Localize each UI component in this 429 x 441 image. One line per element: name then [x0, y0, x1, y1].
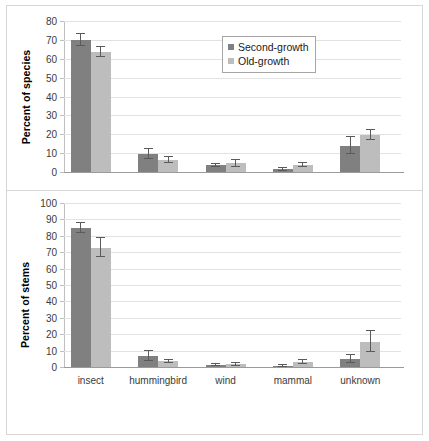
x-axis-line-bottom	[64, 367, 404, 368]
y-tick-mark	[60, 134, 64, 135]
bar-mammal-second-growth	[273, 202, 293, 367]
y-tick-mark	[60, 285, 64, 286]
y-tick-label: 20	[46, 129, 57, 140]
bar-insect-second-growth	[71, 202, 91, 367]
bar-group	[340, 202, 380, 367]
y-tick-mark	[60, 219, 64, 220]
y-tick-mark	[60, 153, 64, 154]
error-bar-cap-lower	[298, 363, 307, 364]
bar-rect	[360, 135, 380, 172]
bar-unknown-old-growth	[360, 202, 380, 367]
error-bar-cap-upper	[76, 222, 85, 223]
bar-unknown-second-growth	[340, 20, 360, 172]
error-bar-cap-lower	[211, 365, 220, 366]
bar-insect-old-growth	[91, 202, 111, 367]
bar-rect	[91, 52, 111, 172]
error-bar-line	[370, 331, 371, 352]
bar-group	[71, 202, 111, 367]
bar-wind-second-growth	[206, 202, 226, 367]
bar-rect	[71, 40, 91, 172]
y-tick-label: 50	[46, 280, 57, 291]
legend-swatch-second-growth	[228, 44, 234, 50]
y-tick-label: 10	[46, 345, 57, 356]
bar-hummingbird-second-growth	[138, 20, 158, 172]
y-tick-label: 50	[46, 72, 57, 83]
legend-label-second-growth: Second-growth	[238, 41, 309, 53]
legend: Second-growth Old-growth	[222, 36, 316, 73]
error-bar-cap-upper	[366, 129, 375, 130]
error-bar-cap-lower	[231, 365, 240, 366]
bar-group	[71, 20, 111, 172]
error-bar-cap-upper	[231, 159, 240, 160]
y-tick-label: 60	[46, 53, 57, 64]
y-tick-label: 30	[46, 312, 57, 323]
error-bar-cap-lower	[366, 351, 375, 352]
error-bar-cap-upper	[298, 162, 307, 163]
y-tick-mark	[60, 334, 64, 335]
error-bar-cap-upper	[164, 156, 173, 157]
y-tick-label: 30	[46, 110, 57, 121]
y-tick-mark	[60, 59, 64, 60]
error-bar-cap-lower	[346, 153, 355, 154]
y-tick-mark	[60, 203, 64, 204]
bar-hummingbird-old-growth	[158, 20, 178, 172]
x-category-label-hummingbird: hummingbird	[129, 375, 187, 386]
y-tick-mark	[60, 115, 64, 116]
y-tick-mark	[60, 318, 64, 319]
y-tick-mark	[60, 97, 64, 98]
bar-rect	[91, 248, 111, 367]
y-tick-label: 20	[46, 329, 57, 340]
legend-item-second-growth: Second-growth	[228, 40, 309, 54]
y-tick-mark	[60, 367, 64, 368]
bar-mammal-old-growth	[293, 202, 313, 367]
legend-label-old-growth: Old-growth	[238, 55, 289, 67]
legend-item-old-growth: Old-growth	[228, 54, 309, 68]
error-bar-line	[100, 238, 101, 257]
error-bar-cap-upper	[96, 237, 105, 238]
error-bar-cap-lower	[164, 362, 173, 363]
error-bar-cap-upper	[346, 136, 355, 137]
error-bar-cap-lower	[278, 366, 287, 367]
y-tick-label: 60	[46, 263, 57, 274]
error-bar-cap-upper	[366, 330, 375, 331]
chart-panel-bottom: Percent of stems 0102030405060708090100i…	[6, 191, 423, 435]
error-bar-cap-lower	[278, 170, 287, 171]
error-bar-cap-upper	[144, 148, 153, 149]
bar-group	[340, 20, 380, 172]
error-bar-cap-lower	[298, 166, 307, 167]
error-bar-cap-upper	[96, 46, 105, 47]
error-bar-cap-upper	[144, 350, 153, 351]
y-tick-mark	[60, 78, 64, 79]
error-bar-cap-lower	[231, 166, 240, 167]
bar-wind-old-growth	[226, 202, 246, 367]
error-bar-cap-lower	[96, 56, 105, 57]
chart-panel-top: Percent of species 01020304050607080 Sec…	[6, 5, 423, 191]
bar-hummingbird-second-growth	[138, 202, 158, 367]
x-axis-line-top	[64, 172, 404, 173]
error-bar-cap-upper	[231, 362, 240, 363]
error-bar-cap-lower	[211, 166, 220, 167]
bar-group	[138, 20, 178, 172]
bar-unknown-second-growth	[340, 202, 360, 367]
x-category-label-insect: insect	[78, 375, 104, 386]
y-tick-mark	[60, 236, 64, 237]
error-bar-cap-upper	[211, 163, 220, 164]
bar-insect-second-growth	[71, 20, 91, 172]
error-bar-cap-upper	[298, 359, 307, 360]
error-bar-cap-lower	[346, 362, 355, 363]
error-bar-line	[350, 137, 351, 153]
x-category-label-mammal: mammal	[274, 375, 312, 386]
y-tick-label: 10	[46, 148, 57, 159]
y-tick-mark	[60, 269, 64, 270]
bar-unknown-old-growth	[360, 20, 380, 172]
y-axis-title-bottom: Percent of stems	[19, 245, 31, 365]
error-bar-cap-lower	[96, 256, 105, 257]
y-tick-mark	[60, 252, 64, 253]
error-bar-cap-lower	[144, 360, 153, 361]
y-tick-mark	[60, 40, 64, 41]
y-tick-label: 100	[40, 198, 57, 209]
error-bar-cap-upper	[278, 167, 287, 168]
y-tick-mark	[60, 172, 64, 173]
figure-root: Percent of species 01020304050607080 Sec…	[0, 0, 429, 441]
x-category-label-wind: wind	[215, 375, 236, 386]
